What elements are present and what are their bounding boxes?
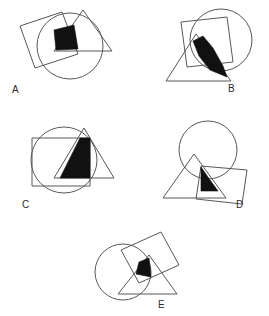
figure-a[interactable] [8,4,128,84]
figure-c[interactable] [18,120,128,200]
puzzle-sheet: A B C D [0,0,269,316]
figure-e-svg [85,228,195,306]
figure-d-label: D [236,200,243,210]
figure-c-shaded-region [60,138,90,178]
figure-b-label: B [228,84,235,94]
figure-a-svg [8,4,128,84]
figure-d-svg [152,120,264,204]
figure-c-label: C [22,200,29,210]
figure-d[interactable] [152,120,264,204]
figure-e-shaded-region [136,258,151,277]
figure-b-svg [155,6,265,86]
figure-a-shaded-region [54,25,78,50]
figure-c-svg [18,120,128,200]
figure-b-shaded-region [193,36,227,77]
figure-b[interactable] [155,6,265,86]
figure-e[interactable] [85,228,195,306]
figure-d-shaded-region [201,167,218,191]
figure-a-label: A [12,85,19,95]
figure-d-circle [179,121,237,179]
figure-e-label: E [158,300,165,310]
